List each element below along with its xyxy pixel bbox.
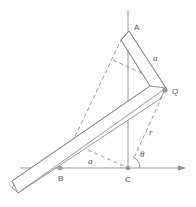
axis-arrow-icon (178, 166, 186, 171)
mechanism-diagram: A a Q r θ a B C (0, 0, 196, 207)
label-C: C (125, 175, 131, 184)
point-Q (162, 87, 167, 92)
theta-arc (133, 157, 140, 168)
label-B: B (58, 174, 63, 183)
point-B (58, 166, 63, 171)
label-a-bottom: a (88, 156, 93, 166)
label-r: r (149, 127, 153, 137)
label-Q: Q (172, 87, 178, 96)
bent-bar (12, 31, 166, 193)
label-A: A (134, 23, 140, 32)
label-theta: θ (140, 149, 145, 159)
point-C (126, 166, 131, 171)
label-a-top: a (153, 53, 158, 63)
